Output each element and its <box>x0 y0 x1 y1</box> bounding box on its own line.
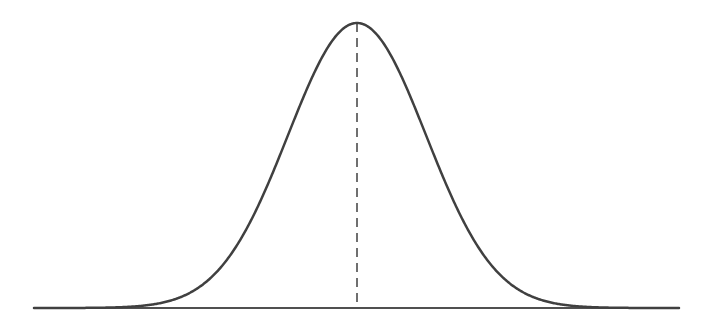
normal-distribution-chart <box>0 0 714 325</box>
